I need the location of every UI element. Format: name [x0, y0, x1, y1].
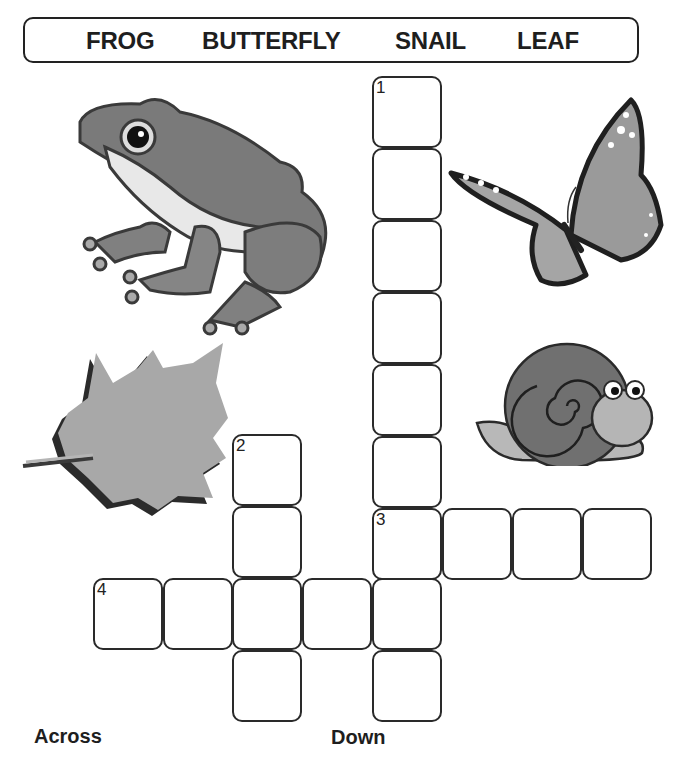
- grid-cell[interactable]: 4: [93, 578, 163, 650]
- word-bank-item: FROG: [86, 27, 155, 55]
- grid-cell[interactable]: [302, 578, 372, 650]
- clue-number: 1: [376, 79, 385, 96]
- leaf-icon: [18, 338, 236, 516]
- grid-cell[interactable]: [512, 508, 582, 580]
- down-heading: Down: [331, 726, 385, 749]
- word-bank-item: LEAF: [517, 27, 579, 55]
- snail-icon: [472, 338, 657, 466]
- across-heading: Across: [34, 725, 102, 748]
- word-bank-item: SNAIL: [395, 27, 466, 55]
- grid-cell[interactable]: 2: [232, 434, 302, 506]
- clue-number: 3: [376, 511, 385, 528]
- grid-cell[interactable]: [232, 578, 302, 650]
- grid-cell[interactable]: [372, 436, 442, 508]
- word-bank: FROG BUTTERFLY SNAIL LEAF: [23, 17, 639, 63]
- grid-cell[interactable]: [163, 578, 233, 650]
- butterfly-icon: [446, 95, 668, 295]
- grid-cell[interactable]: [372, 650, 442, 722]
- grid-cell[interactable]: [372, 292, 442, 364]
- grid-cell[interactable]: [442, 508, 512, 580]
- clue-number: 4: [97, 581, 106, 598]
- grid-cell[interactable]: [232, 506, 302, 578]
- grid-cell[interactable]: 3: [372, 508, 442, 580]
- grid-cell[interactable]: [372, 220, 442, 292]
- clue-number: 2: [236, 437, 245, 454]
- grid-cell[interactable]: [372, 578, 442, 650]
- grid-cell[interactable]: [232, 650, 302, 722]
- grid-cell[interactable]: [582, 508, 652, 580]
- grid-cell[interactable]: [372, 148, 442, 220]
- word-bank-item: BUTTERFLY: [202, 27, 341, 55]
- grid-cell[interactable]: 1: [372, 76, 442, 148]
- frog-icon: [70, 92, 335, 337]
- grid-cell[interactable]: [372, 364, 442, 436]
